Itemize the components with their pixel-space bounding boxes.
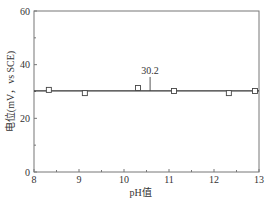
- y-tick-label: 0: [25, 167, 30, 178]
- x-tick-label: 12: [209, 174, 219, 185]
- x-tick-label: 11: [164, 174, 174, 185]
- y-axis-title: 电位(mV，vs SCE): [4, 51, 17, 132]
- data-point: [226, 91, 231, 96]
- data-point: [46, 87, 51, 92]
- y-tick-label: 40: [20, 59, 30, 70]
- x-tick-label: 8: [32, 174, 37, 185]
- y-tick-label: 20: [20, 113, 30, 124]
- data-point: [82, 91, 87, 96]
- x-tick-label: 10: [119, 174, 129, 185]
- x-axis-title: pH值: [129, 186, 151, 198]
- x-tick-label: 13: [254, 174, 264, 185]
- data-point: [171, 88, 176, 93]
- marks: [34, 77, 259, 96]
- chart: 89101112130204060 30.2 pH值 电位(mV，vs SCE): [0, 0, 266, 201]
- x-tick-label: 9: [77, 174, 82, 185]
- data-point: [135, 86, 140, 91]
- annotation-label: 30.2: [141, 65, 159, 76]
- y-tick-label: 60: [20, 6, 30, 17]
- data-point: [252, 88, 257, 93]
